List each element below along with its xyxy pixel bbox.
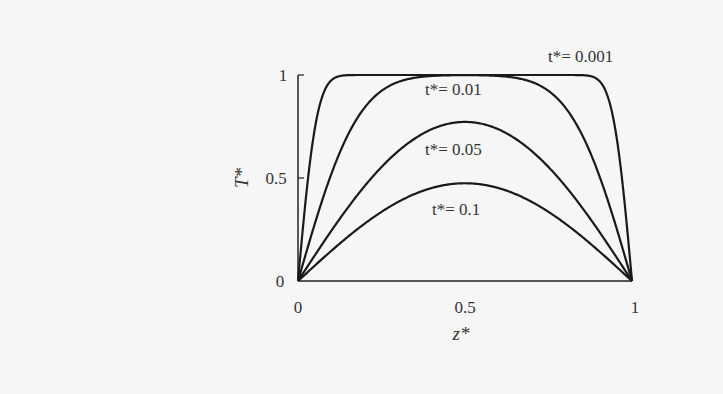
x-tick-label-1: 1 (631, 298, 640, 317)
y-tick-label-1: 1 (279, 66, 288, 85)
curve-label-t01: t*= 0.1 (432, 200, 480, 219)
curve-label-t005: t*= 0.05 (425, 140, 482, 159)
x-tick-label-0: 0 (294, 298, 303, 317)
curve-01 (298, 183, 632, 281)
curve-label-t001: t*= 0.01 (425, 80, 482, 99)
axes (298, 75, 632, 281)
chart-canvas: 0 0.5 1 0 0.5 1 z* T* t*= 0.001 t*= 0.01… (0, 0, 723, 394)
curve-label-t0001: t*= 0.001 (548, 47, 613, 66)
x-tick-label-0.5: 0.5 (454, 298, 475, 317)
y-axis-title: T* (231, 167, 252, 188)
curve-0001 (298, 75, 632, 281)
curves (298, 75, 632, 281)
y-tick-label-0.5: 0.5 (265, 169, 286, 188)
labels: 0 0.5 1 0 0.5 1 z* T* t*= 0.001 t*= 0.01… (231, 47, 639, 344)
curve-001 (298, 75, 632, 281)
y-tick-label-0: 0 (276, 272, 285, 291)
x-axis-title: z* (452, 323, 470, 344)
